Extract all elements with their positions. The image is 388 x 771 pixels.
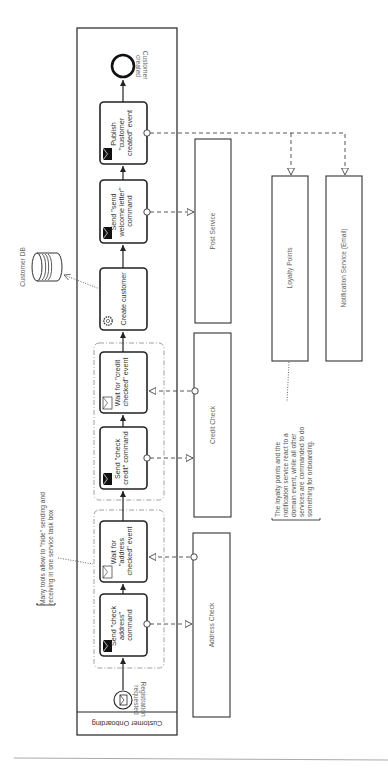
pool-label: Customer Onboarding: [92, 719, 163, 728]
svg-text:Send "check address": Send "check address" command: [109, 604, 134, 646]
message-out-port: [144, 455, 150, 461]
participant-credit-check[interactable]: Credit Check: [194, 333, 231, 517]
message-out-port: [144, 209, 150, 215]
annotation-association: [287, 362, 289, 402]
message-out-port: [144, 621, 150, 627]
start-event-label-2: requested: [132, 685, 140, 715]
svg-text:Send "check credit" comm: Send "check credit" command: [113, 431, 130, 485]
participant-label: Credit Check: [209, 405, 216, 444]
participant-loyalty-points[interactable]: Loyalty Points: [272, 176, 308, 361]
task-wait-address-checked[interactable]: Wait for "address checked" event: [100, 521, 147, 582]
participant-label: Notification Service (Email): [340, 228, 348, 307]
envelope-icon: [120, 695, 127, 705]
task-label-line: credit" command: [121, 431, 130, 485]
svg-text:Customer created: Customer created: [135, 51, 150, 81]
annotation-line: Many tools allow to "hide" sending and: [39, 492, 47, 605]
annotation-line: domain event, while all other: [290, 433, 297, 517]
message-flows: [149, 133, 345, 624]
svg-text:Wait for "credit checked: Wait for "credit checked" event: [113, 358, 130, 407]
svg-text:Registration requested: Registration requested: [132, 681, 148, 718]
bpmn-diagram: Customer Onboarding Registration request…: [0, 0, 388, 771]
annotation-tools-note: Many tools allow to "hide" sending and r…: [37, 490, 55, 605]
receive-envelope-icon: [103, 566, 112, 578]
data-store-customer-db[interactable]: Customer DB: [19, 247, 62, 287]
svg-text:Create customer: Create customer: [119, 272, 128, 326]
annotation-line: notification service react to a: [282, 433, 289, 517]
send-envelope-icon: [103, 473, 112, 485]
task-send-welcome-letter[interactable]: Send "send welcome letter" command: [100, 180, 150, 243]
participant-label: Address Check: [208, 602, 215, 647]
page-divider: [14, 758, 388, 760]
task-label-line: command: [125, 195, 134, 227]
task-send-check-address[interactable]: Send "check address" command: [100, 594, 150, 656]
task-label-line: Create customer: [119, 272, 128, 326]
task-publish-customer-created[interactable]: Publish "customer created" event: [100, 102, 150, 164]
annotation-line: something for onboarding.: [306, 440, 314, 517]
database-icon: [32, 252, 62, 282]
annotation-line: receiving in one service task box: [47, 509, 55, 605]
end-event-label-2: created: [135, 55, 142, 77]
participant-address-check[interactable]: Address Check: [193, 533, 230, 717]
task-wait-credit-checked[interactable]: Wait for "credit checked" event: [100, 352, 147, 413]
annotation-line: The loyalty points and the: [274, 442, 282, 517]
annotation-events-note: The loyalty points and the notification …: [272, 425, 320, 520]
message-out-port: [144, 130, 150, 136]
annotation-line: services are commanded to do: [298, 427, 305, 517]
participant-label: Loyalty Points: [286, 247, 294, 289]
task-create-customer[interactable]: Create customer: [100, 268, 147, 330]
svg-text:Many tools allow to "hide" sen: Many tools allow to "hide" sending and r…: [39, 490, 55, 605]
task-label-line: checked" event: [121, 358, 130, 407]
receive-envelope-icon: [103, 397, 112, 409]
task-label-line: command: [125, 609, 134, 641]
task-send-check-credit[interactable]: Send "check credit" command: [100, 427, 150, 489]
send-envelope-icon: [103, 148, 112, 160]
task-label-line: checked" event: [125, 527, 134, 576]
participant-label: Post Service: [209, 212, 216, 249]
participant-notification-service[interactable]: Notification Service (Email): [326, 176, 362, 361]
data-store-label: Customer DB: [19, 247, 26, 287]
gear-icon: [104, 317, 112, 325]
svg-text:The loyalty points and the: The loyalty points and the notification …: [274, 425, 314, 517]
participant-post-service[interactable]: Post Service: [195, 139, 231, 323]
task-label-line: created" event: [125, 110, 134, 156]
end-event-label-1: Customer: [142, 51, 149, 80]
